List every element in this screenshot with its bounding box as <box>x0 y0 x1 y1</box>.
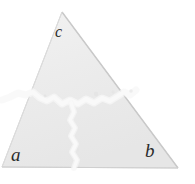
vertex-label-c: c <box>55 24 62 40</box>
triangle-diagram <box>0 0 195 184</box>
vertex-label-b: b <box>145 141 155 160</box>
vertex-label-a: a <box>11 145 21 164</box>
figure-canvas: c a b <box>0 0 195 184</box>
